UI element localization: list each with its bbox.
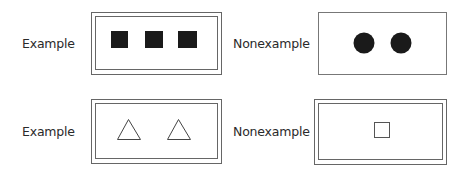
filled-square-icon [178,31,197,48]
square-outline-icon [375,123,390,138]
panel-example-squares [92,13,222,75]
panel-example-triangles [92,100,222,164]
triangle-outline-icon [168,120,191,140]
filled-square-icon [111,31,128,48]
panel-nonexample-circles [319,13,447,75]
filled-square-icon [145,31,163,48]
filled-circle-icon [391,33,412,54]
example-nonexample-diagram [0,0,467,173]
triangle-outline-icon [118,120,141,140]
panel-nonexample-square [315,100,447,165]
filled-circle-icon [354,33,375,54]
